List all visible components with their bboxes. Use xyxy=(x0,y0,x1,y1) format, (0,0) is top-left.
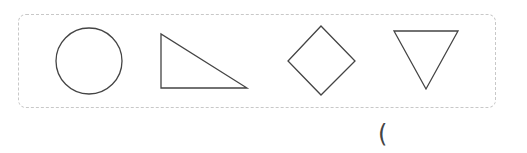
circle-shape xyxy=(56,28,122,94)
right-triangle-shape xyxy=(161,34,247,88)
answer-bracket: ( xyxy=(378,122,387,146)
shapes-canvas xyxy=(0,0,527,153)
inverted-triangle-shape xyxy=(394,31,458,89)
diamond-shape xyxy=(288,26,355,95)
